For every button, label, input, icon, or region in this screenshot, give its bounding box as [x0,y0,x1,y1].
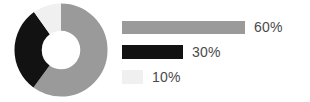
legend-label-60: 60% [254,20,283,34]
donut-chart-svg [14,3,108,97]
legend: 60% 30% 10% [122,14,308,94]
legend-bar-30 [122,45,183,59]
legend-label-10: 10% [152,70,181,84]
legend-item-60: 60% [122,19,283,35]
donut-chart [14,3,108,97]
legend-item-10: 10% [122,69,181,85]
legend-bar-60 [122,21,245,34]
legend-item-30: 30% [122,44,221,60]
donut-chart-infographic: 60% 30% 10% [0,0,310,102]
legend-label-30: 30% [192,45,221,59]
legend-bar-10 [122,70,143,84]
